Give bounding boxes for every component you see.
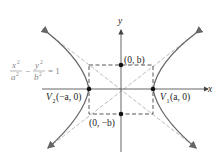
svg-text:(a, 0): (a, 0) <box>170 92 190 103</box>
label-v2: V 2 (−a, 0) <box>46 92 81 104</box>
y-axis-label: y <box>117 16 123 26</box>
svg-text:(−a, 0): (−a, 0) <box>56 92 81 103</box>
svg-text:y: y <box>34 60 39 70</box>
svg-text:2: 2 <box>39 71 42 77</box>
point-co-vertex-bottom <box>119 112 124 117</box>
svg-text:x: x <box>11 60 16 70</box>
diagram-svg: y x (0, b) (0, −b) V 2 (−a, 0) V 1 (a, 0… <box>0 0 216 160</box>
hyperbola-equation: x 2 a 2 − y 2 b 2 = 1 <box>10 59 60 82</box>
svg-text:2: 2 <box>40 59 43 65</box>
hyperbola-diagram: y x (0, b) (0, −b) V 2 (−a, 0) V 1 (a, 0… <box>0 0 216 160</box>
svg-text:−: − <box>25 66 30 76</box>
hyperbola-right-branch <box>153 33 196 148</box>
label-top-point: (0, b) <box>124 55 145 66</box>
svg-text:2: 2 <box>17 59 20 65</box>
hyperbola-left-branch <box>48 33 89 148</box>
point-co-vertex-top <box>119 63 124 68</box>
label-bottom-point: (0, −b) <box>89 118 115 129</box>
label-v1: V 1 (a, 0) <box>160 92 190 104</box>
point-vertex-v1 <box>151 87 156 92</box>
svg-text:2: 2 <box>16 71 19 77</box>
x-axis-label: x <box>207 84 213 94</box>
asymptotes <box>48 33 196 148</box>
point-vertex-v2 <box>87 87 92 92</box>
svg-text:= 1: = 1 <box>48 66 60 76</box>
